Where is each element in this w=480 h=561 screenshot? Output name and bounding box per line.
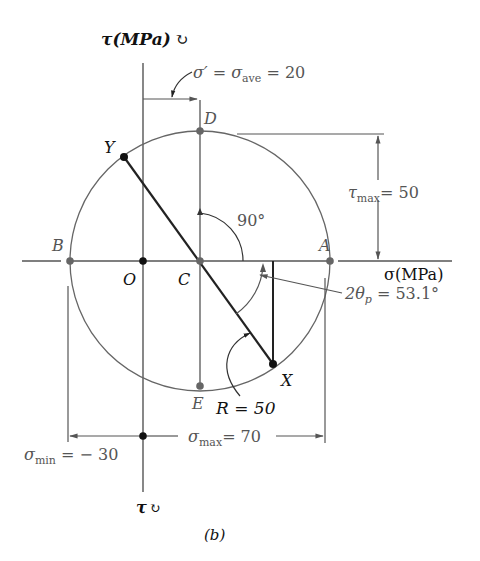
point-B (66, 257, 74, 265)
label-A: A (317, 236, 331, 255)
label-D: D (203, 109, 217, 128)
point-D (196, 127, 204, 135)
label-C: C (178, 270, 190, 289)
label-Y: Y (104, 138, 116, 157)
mohr-circle-diagram: A B C D E O X Y τ(MPa) ↻ σ(MPa) τ ↻ σ′ =… (0, 0, 480, 561)
sigma-axis-label: σ(MPa) (384, 265, 443, 284)
tau-axis-label-bottom: τ (136, 498, 147, 517)
point-E (196, 382, 204, 390)
ccw-rotation-icon: ↻ (175, 30, 188, 49)
cw-rotation-icon: ↻ (149, 500, 161, 516)
label-E: E (191, 394, 204, 413)
label-O: O (123, 270, 136, 289)
point-C (196, 257, 204, 265)
tau-axis-label-top: τ(MPa) (101, 29, 171, 49)
figure-caption: (b) (204, 526, 225, 544)
radius-leader (227, 333, 250, 396)
sigma-min-annotation: σmin = − 30 (24, 445, 118, 467)
sigma-ave-leader (172, 72, 192, 97)
point-sigma-origin-bottom (139, 432, 147, 440)
sigma-ave-annotation: σ′ = σave = 20 (193, 63, 305, 85)
angle-90-label: 90° (237, 211, 265, 230)
point-X (269, 360, 277, 368)
tau-max-annotation: τmax= 50 (348, 183, 419, 205)
sigma-max-annotation: σmax= 70 (188, 427, 261, 449)
point-Y (120, 153, 128, 161)
label-B: B (51, 236, 64, 255)
two-theta-arc (236, 266, 263, 314)
label-X: X (279, 371, 293, 390)
point-A (326, 257, 334, 265)
two-theta-p-annotation: 2θp = 53.1° (344, 284, 439, 306)
radius-annotation: R = 50 (215, 398, 276, 418)
point-O (139, 257, 147, 265)
